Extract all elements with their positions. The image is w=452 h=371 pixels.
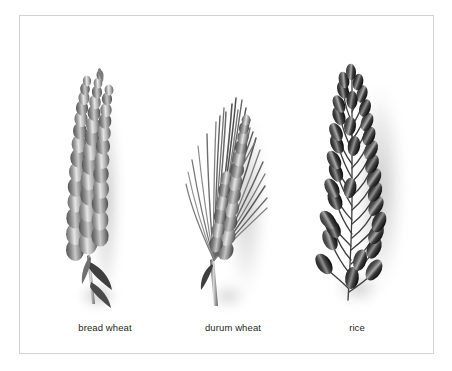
caption-rice: rice [292, 322, 422, 333]
specimen-rice: rice [292, 38, 422, 338]
rice-panicle-icon [292, 38, 422, 313]
caption-durum-wheat: durum wheat [168, 322, 298, 333]
illustration-plate: bread wheat [0, 0, 452, 371]
caption-bread-wheat: bread wheat [40, 322, 170, 333]
wheat-ear-awned-icon [168, 38, 298, 313]
specimen-durum-wheat: durum wheat [168, 38, 298, 338]
specimen-bread-wheat: bread wheat [40, 38, 170, 338]
wheat-ear-icon [40, 38, 170, 313]
plate-frame: bread wheat [19, 15, 434, 354]
